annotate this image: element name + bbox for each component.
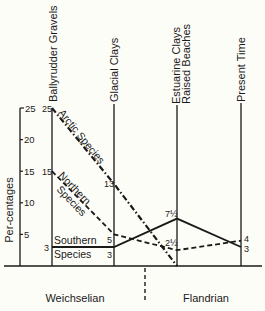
value-southern-glacial: 3 <box>107 250 112 260</box>
value-northern-present: 4 <box>244 234 249 244</box>
y-axis: 25 20 15 10 5 Per-centages <box>3 103 36 267</box>
species-percentage-chart: 25 20 15 10 5 Per-centages Ballyrudder G… <box>0 0 265 311</box>
period-label-flandrian: Flandrian <box>183 292 229 304</box>
value-northern-estuarine: 2½ <box>165 238 178 248</box>
column-label-raised-beaches: Raised Beaches <box>180 23 192 104</box>
value-southern-ballyrudder: 3 <box>44 243 49 253</box>
value-northern-ballyrudder: 15 <box>42 167 52 177</box>
y-axis-label: Per-centages <box>3 177 15 243</box>
column-label-ballyrudder-gravels: Ballyrudder Gravels <box>47 5 59 102</box>
y-tick-20: 20 <box>24 134 35 145</box>
y-tick-10: 10 <box>24 197 35 208</box>
value-northern-glacial: 5 <box>107 235 112 245</box>
column-label-glacial-clays: Glacial Clays <box>108 37 120 102</box>
label-southern: Southern <box>54 234 97 246</box>
label-southern-species: Species <box>54 248 91 260</box>
y-tick-15: 15 <box>24 166 35 177</box>
value-arctic-ballyrudder: 25 <box>42 104 52 114</box>
column-label-present-time: Present Time <box>235 37 247 102</box>
y-tick-5: 5 <box>24 229 29 240</box>
value-southern-present: 3 <box>244 244 249 254</box>
value-arctic-glacial: 13 <box>104 179 114 189</box>
period-label-weichselian: Weichselian <box>45 292 104 304</box>
column-labels: Ballyrudder Gravels Glacial Clays Estuar… <box>47 5 247 104</box>
label-arctic-species: Arctic Species <box>56 107 107 166</box>
y-tick-25: 25 <box>25 103 36 114</box>
value-southern-estuarine: 7½ <box>165 209 178 219</box>
